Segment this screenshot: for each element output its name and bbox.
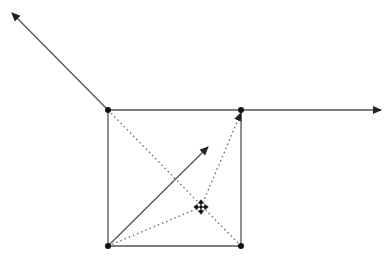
point-top-left[interactable] xyxy=(105,107,111,113)
arrow-up-left xyxy=(12,13,108,110)
move-cursor-icon[interactable] xyxy=(193,199,209,215)
dotted-arrow-up xyxy=(201,113,241,207)
dotted-to-cursor xyxy=(108,207,201,246)
point-bottom-left[interactable] xyxy=(105,243,111,249)
vector-diagram xyxy=(0,0,386,257)
point-top-right[interactable] xyxy=(238,107,244,113)
point-bottom-right[interactable] xyxy=(238,243,244,249)
